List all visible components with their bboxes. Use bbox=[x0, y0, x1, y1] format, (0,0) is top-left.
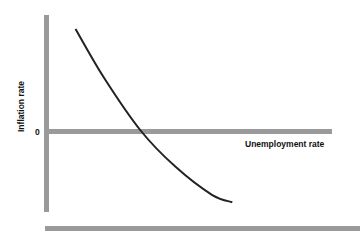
y-tick-label-0: 0 bbox=[35, 127, 40, 137]
series-line-phillips-curve bbox=[76, 29, 233, 202]
zero-line-x-axis bbox=[46, 129, 332, 134]
x-axis-label: Unemployment rate bbox=[245, 139, 325, 149]
y-axis-label: Inflation rate bbox=[16, 81, 26, 132]
bottom-rule bbox=[45, 226, 360, 231]
y-axis bbox=[44, 15, 49, 212]
phillips-curve-chart: 0 Inflation rate Unemployment rate bbox=[0, 0, 360, 234]
